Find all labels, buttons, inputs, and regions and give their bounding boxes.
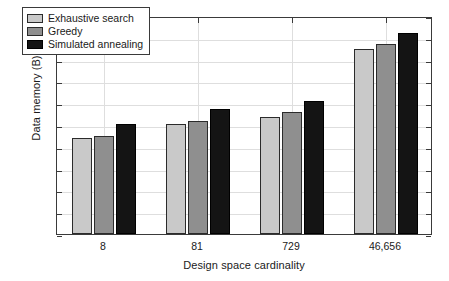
bar (116, 124, 136, 234)
y-axis-tick (57, 214, 62, 215)
x-axis-tick (292, 18, 293, 23)
x-axis-tick-label: 8 (68, 240, 138, 252)
x-axis-tick-label: 81 (162, 240, 232, 252)
y-axis-tick (426, 214, 431, 215)
x-axis-tick-label: 46,656 (350, 240, 420, 252)
y-axis-tick (426, 62, 431, 63)
bar (376, 44, 396, 234)
y-axis-tick (57, 171, 62, 172)
y-axis-tick (57, 192, 62, 193)
x-axis-tick (198, 18, 199, 23)
chart-legend: Exhaustive searchGreedySimulated anneali… (22, 7, 150, 55)
bar (72, 138, 92, 234)
y-axis-tick (57, 149, 62, 150)
bar (282, 112, 302, 234)
y-axis-tick (426, 171, 431, 172)
bar (354, 49, 374, 234)
bar (398, 33, 418, 234)
y-axis-tick (57, 83, 62, 84)
y-axis-tick (426, 83, 431, 84)
legend-item: Simulated annealing (27, 38, 143, 50)
x-axis-tick (386, 18, 387, 23)
x-axis-tick-label: 729 (256, 240, 326, 252)
legend-label: Simulated annealing (48, 39, 143, 50)
bar-chart-figure: Data memory (B) 010020030040050060070080… (0, 0, 449, 281)
legend-item: Greedy (27, 25, 143, 37)
y-axis-tick (57, 62, 62, 63)
bar (166, 124, 186, 234)
gridline-horizontal (57, 83, 431, 84)
x-axis-title: Design space cardinality (56, 259, 432, 271)
legend-swatch-icon (27, 14, 43, 23)
gridline-horizontal (57, 127, 431, 128)
legend-item: Exhaustive search (27, 12, 143, 24)
bar (304, 101, 324, 234)
legend-label: Exhaustive search (48, 13, 134, 24)
y-axis-tick (57, 105, 62, 106)
y-axis-tick (426, 40, 431, 41)
gridline-horizontal (57, 105, 431, 106)
y-axis-tick (57, 236, 62, 237)
y-axis-tick (426, 105, 431, 106)
bar (188, 121, 208, 234)
legend-label: Greedy (48, 26, 82, 37)
y-axis-tick (57, 127, 62, 128)
legend-swatch-icon (27, 40, 43, 49)
y-axis-tick (426, 192, 431, 193)
y-axis-tick (426, 18, 431, 19)
y-axis-tick (426, 149, 431, 150)
y-axis-tick (426, 127, 431, 128)
legend-swatch-icon (27, 27, 43, 36)
bar (210, 109, 230, 234)
bar (94, 136, 114, 234)
gridline-horizontal (57, 62, 431, 63)
y-axis-tick (426, 236, 431, 237)
bar (260, 117, 280, 234)
